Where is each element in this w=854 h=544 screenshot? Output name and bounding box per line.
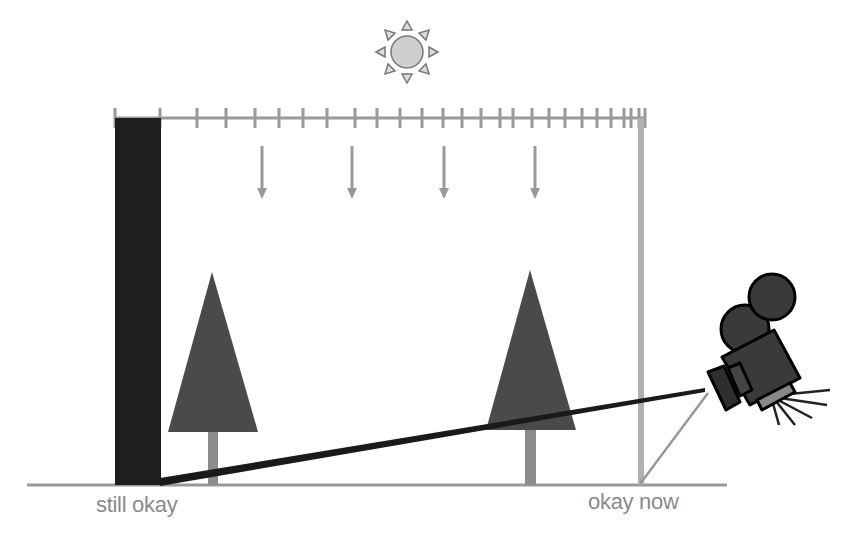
light-wall — [638, 118, 644, 485]
sight-line-gray — [640, 393, 708, 484]
down-arrow-icon — [530, 146, 540, 199]
tree-icon — [486, 270, 576, 485]
light-arrows — [257, 146, 540, 199]
label-okay-now: okay now — [588, 489, 679, 515]
dark-wall — [115, 118, 161, 485]
movie-camera-icon — [708, 274, 830, 425]
ruler — [115, 108, 645, 128]
down-arrow-icon — [347, 146, 357, 199]
diagram-canvas — [0, 0, 854, 544]
down-arrow-icon — [257, 146, 267, 199]
sun-icon — [376, 21, 438, 83]
down-arrow-icon — [439, 146, 449, 199]
label-still-okay: still okay — [96, 492, 177, 518]
tree-icon — [168, 272, 258, 485]
